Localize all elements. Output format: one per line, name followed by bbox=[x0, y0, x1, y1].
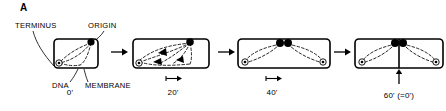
scale-bar-20 bbox=[166, 76, 182, 81]
cell-stage-40: 40' bbox=[238, 39, 330, 97]
figure-canvas: A TERMINUS ORIGIN DNA MEMBRANE 0' bbox=[0, 0, 446, 111]
origin-dot-40-right bbox=[284, 39, 292, 47]
flow-arrow-2 bbox=[218, 49, 235, 56]
label-origin: ORIGIN bbox=[88, 21, 117, 30]
leader-line-terminus bbox=[33, 31, 54, 66]
scale-bar-40-head bbox=[277, 76, 282, 81]
time-label-stage-20: 20' bbox=[167, 88, 178, 97]
time-label-stage-60: 60' (=0') bbox=[384, 91, 415, 100]
division-arrow-head bbox=[396, 69, 402, 74]
panel-letter-a: A bbox=[20, 2, 28, 13]
origin-dot-60-right bbox=[399, 39, 407, 47]
division-site-arrow bbox=[396, 69, 402, 84]
flow-arrow-2-head bbox=[229, 49, 235, 56]
label-terminus: TERMINUS bbox=[15, 21, 57, 30]
origin-dot-60-left bbox=[391, 39, 399, 47]
flow-arrow-3-head bbox=[345, 49, 351, 56]
origin-dot-0 bbox=[87, 38, 94, 45]
flow-arrow-3 bbox=[334, 49, 351, 56]
scale-bar-40 bbox=[266, 76, 282, 81]
label-membrane: MEMBRANE bbox=[85, 81, 131, 90]
time-label-stage-40: 40' bbox=[266, 88, 277, 97]
bacterial-cell-cycle-figure: A TERMINUS ORIGIN DNA MEMBRANE 0' bbox=[0, 0, 446, 111]
time-label-stage-0: 0' bbox=[67, 88, 74, 97]
terminus-core-20 bbox=[138, 62, 141, 65]
cell-membrane-outline-40 bbox=[238, 39, 330, 68]
origin-dot-20 bbox=[186, 38, 194, 46]
terminus-core-40-right bbox=[322, 61, 325, 64]
cell-stage-20: 20' bbox=[133, 38, 209, 97]
flow-arrow-1-head bbox=[122, 49, 128, 56]
terminus-core-60-right bbox=[435, 61, 438, 64]
leader-line-dna bbox=[70, 69, 78, 82]
flow-arrow-1 bbox=[111, 49, 128, 56]
terminus-core-60-left bbox=[361, 61, 364, 64]
origin-dot-40-left bbox=[276, 39, 284, 47]
scale-bar-20-head bbox=[177, 76, 182, 81]
terminus-core-0 bbox=[58, 62, 61, 65]
cell-stage-60: 60' (=0') bbox=[355, 39, 443, 100]
terminus-core-40-left bbox=[244, 61, 247, 64]
